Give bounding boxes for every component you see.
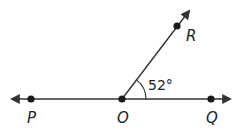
point-r: [173, 22, 180, 29]
angle-arc: [137, 80, 146, 99]
label-q: Q: [206, 109, 218, 127]
point-o: [118, 95, 125, 102]
point-q: [207, 95, 214, 102]
label-r: R: [186, 27, 196, 45]
angle-measure-label: 52°: [148, 77, 173, 93]
point-p: [27, 95, 34, 102]
angle-diagram: P O Q R 52°: [0, 0, 240, 134]
label-p: P: [27, 109, 37, 127]
label-o: O: [117, 109, 129, 127]
